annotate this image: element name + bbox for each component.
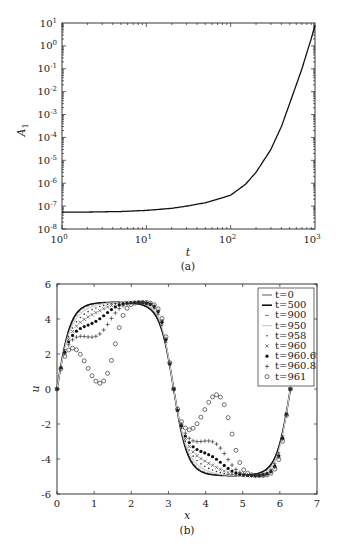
legend-label: t=961: [275, 371, 306, 382]
y-tick-label: 10-6: [37, 177, 57, 189]
panel-b-caption: (b): [180, 524, 195, 536]
y-tick-label: 10-5: [37, 154, 57, 166]
y-tick-label: -2: [41, 419, 51, 430]
panel-a-y-label-sub: 1: [21, 123, 30, 128]
y-tick-label: -4: [41, 454, 51, 465]
x-tick-label: 0: [54, 498, 60, 509]
y-tick-label: 6: [45, 279, 51, 290]
panel-a-y-tick-labels: 10110010-110-210-310-410-510-610-710-8: [37, 17, 57, 235]
x-tick-label: 5: [240, 498, 246, 509]
x-tick-label: 1: [91, 498, 97, 509]
y-tick-label: 101: [40, 17, 57, 29]
panel-b-y-axis-label: u: [29, 385, 42, 392]
y-tick-label: 10-3: [37, 108, 57, 120]
panel-a-y-label-main: A: [15, 129, 28, 138]
x-tick-label: 7: [314, 498, 320, 509]
panel-b-chart: 012345676420-2-4-6 t=0t=500t=900t=950t=9…: [29, 279, 320, 537]
y-tick-label: 100: [40, 39, 57, 51]
y-tick-label: 2: [45, 349, 51, 360]
series-t960.8-markers: [55, 300, 292, 477]
panel-a-ticks: [62, 23, 315, 229]
panel-b-legend: t=0t=500t=900t=950t=958t=960t=960.6t=960…: [258, 288, 316, 386]
panel-a-chart: 10110010-110-210-310-410-510-610-710-8 1…: [15, 17, 321, 273]
y-tick-label: 10-1: [37, 62, 57, 74]
y-tick-label: -6: [41, 489, 51, 500]
legend-swatch: [266, 335, 268, 337]
y-tick-label: 4: [45, 314, 51, 325]
panel-b-curves: [55, 300, 292, 477]
figure: 10110010-110-210-310-410-510-610-710-8 1…: [0, 0, 339, 558]
x-tick-label: 6: [277, 498, 283, 509]
x-tick-label: 4: [202, 498, 208, 509]
panel-b-x-axis-label: x: [184, 509, 191, 522]
x-tick-label: 100: [50, 233, 67, 245]
panel-a-x-axis-label: t: [186, 246, 191, 259]
legend-swatch: [265, 355, 268, 358]
y-tick-label: 10-8: [37, 223, 57, 235]
panel-a-plot-frame: [62, 23, 315, 229]
x-tick-label: 103: [303, 233, 320, 245]
panel-a-caption: (a): [181, 260, 195, 272]
svg-text:A1: A1: [15, 123, 30, 137]
y-tick-label: 10-4: [37, 131, 57, 143]
x-tick-label: 101: [135, 233, 152, 245]
panel-a-x-tick-labels: 100101102103: [50, 233, 320, 245]
panel-a-y-axis-label: A1: [15, 123, 30, 137]
y-tick-label: 10-7: [37, 200, 57, 212]
x-tick-label: 2: [128, 498, 134, 509]
y-tick-label: 0: [45, 384, 51, 395]
y-tick-label: 10-2: [37, 85, 57, 97]
x-tick-label: 3: [165, 498, 171, 509]
panel-a-a1-curve: [62, 25, 315, 212]
x-tick-label: 102: [219, 233, 236, 245]
